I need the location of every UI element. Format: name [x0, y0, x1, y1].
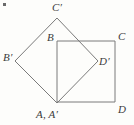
square-abcd-path [57, 41, 115, 102]
vertex-label-a-a-prime: A, A′ [36, 109, 58, 120]
vertex-label-c-prime: C′ [52, 2, 62, 13]
vertex-label-b: B [47, 32, 54, 43]
figure-canvas [0, 0, 134, 125]
vertex-label-c: C [118, 31, 126, 42]
vertex-label-d-prime: D′ [99, 56, 110, 67]
geometry-figure: C′ B′ B C D′ D A, A′ [0, 0, 134, 125]
vertex-label-d: D [118, 104, 126, 115]
vertex-label-b-prime: B′ [3, 52, 13, 63]
